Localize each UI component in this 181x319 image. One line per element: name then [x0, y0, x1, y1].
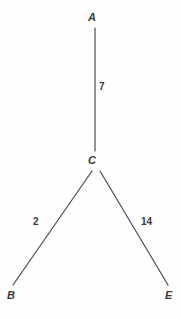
- edge-weight-c-b: 2: [33, 217, 39, 227]
- edge-weight-c-e: 14: [141, 217, 152, 227]
- edge-weight-a-c: 7: [99, 82, 105, 92]
- node-label-c: C: [88, 155, 96, 166]
- edge-c-e: [100, 171, 168, 285]
- node-label-b: B: [7, 290, 15, 301]
- edge-c-b: [13, 171, 92, 285]
- node-label-e: E: [165, 290, 172, 301]
- node-label-a: A: [88, 12, 96, 23]
- graph-diagram: A C B E 7 2 14: [0, 0, 181, 319]
